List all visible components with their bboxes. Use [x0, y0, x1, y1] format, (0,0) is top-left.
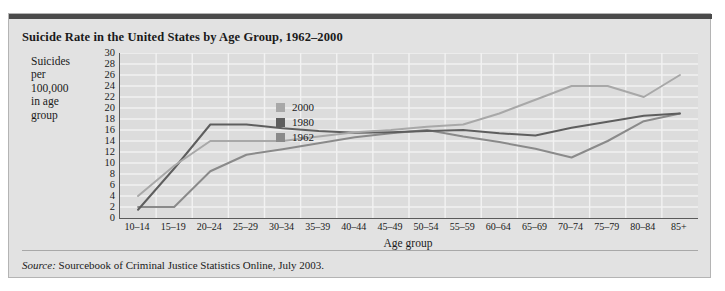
legend-swatch-icon — [276, 118, 285, 127]
x-tick-label: 15–19 — [161, 221, 186, 232]
y-axis-title-line-3: 100,000 — [31, 82, 93, 95]
y-tick-label: 10 — [105, 158, 116, 169]
legend-swatch-icon — [276, 103, 285, 112]
y-axis-title-line-4: in age — [31, 95, 93, 108]
source-label: Source: — [22, 259, 56, 271]
x-tick-label: 40–44 — [341, 221, 366, 232]
title-rule — [9, 14, 712, 19]
y-axis-title-line-1: Suicides — [31, 55, 93, 68]
y-tick-label: 24 — [105, 81, 116, 92]
chart-legend: 200019801962 — [276, 100, 314, 145]
y-axis-ticks: 024681012141618202224262830 — [97, 53, 115, 231]
legend-item-1962[interactable]: 1962 — [276, 130, 314, 145]
x-tick-label: 35–39 — [305, 221, 330, 232]
y-tick-label: 30 — [105, 48, 116, 59]
x-tick-label: 60–64 — [486, 221, 511, 232]
source-note: Source: Sourcebook of Criminal Justice S… — [22, 259, 324, 271]
legend-item-1980[interactable]: 1980 — [276, 115, 314, 130]
y-tick-label: 0 — [110, 213, 115, 224]
x-tick-label: 85+ — [671, 221, 687, 232]
x-tick-label: 10–14 — [125, 221, 150, 232]
legend-item-label: 1980 — [292, 117, 314, 128]
x-axis-title: Age group — [119, 237, 697, 249]
y-tick-label: 14 — [105, 136, 116, 147]
legend-item-label: 1962 — [292, 132, 314, 143]
chart-title: Suicide Rate in the United States by Age… — [22, 30, 343, 45]
y-tick-label: 12 — [105, 147, 116, 158]
series-canvas — [120, 53, 698, 218]
x-tick-label: 30–34 — [269, 221, 294, 232]
x-tick-label: 25–29 — [233, 221, 258, 232]
x-tick-label: 80–84 — [630, 221, 655, 232]
x-tick-label: 20–24 — [197, 221, 222, 232]
legend-swatch-icon — [276, 133, 285, 142]
x-tick-label: 45–49 — [377, 221, 402, 232]
y-tick-label: 8 — [110, 169, 115, 180]
source-text: Sourcebook of Criminal Justice Statistic… — [56, 259, 324, 271]
legend-item-2000[interactable]: 2000 — [276, 100, 314, 115]
y-tick-label: 16 — [105, 125, 116, 136]
legend-item-label: 2000 — [292, 102, 314, 113]
y-tick-label: 26 — [105, 70, 116, 81]
figure-panel: Suicide Rate in the United States by Age… — [8, 13, 711, 278]
y-axis-title-line-5: group — [31, 109, 93, 122]
y-tick-label: 18 — [105, 114, 116, 125]
x-axis-ticks: 10–1415–1920–2425–2930–3435–3940–4445–49… — [119, 221, 697, 237]
y-tick-label: 4 — [110, 191, 115, 202]
y-tick-label: 20 — [105, 103, 116, 114]
y-tick-label: 6 — [110, 180, 115, 191]
x-tick-label: 75–79 — [594, 221, 619, 232]
y-tick-label: 28 — [105, 59, 116, 70]
y-tick-label: 2 — [110, 202, 115, 213]
plot-wrapper: 024681012141618202224262830 10–1415–1920… — [97, 53, 697, 231]
x-tick-label: 70–74 — [558, 221, 583, 232]
y-tick-label: 22 — [105, 92, 116, 103]
y-axis-title-line-2: per — [31, 68, 93, 81]
plot-area — [119, 53, 698, 219]
y-axis-title: Suicides per 100,000 in age group — [31, 55, 93, 122]
x-tick-label: 65–69 — [522, 221, 547, 232]
x-tick-label: 55–59 — [450, 221, 475, 232]
source-divider — [22, 250, 698, 251]
x-tick-label: 50–54 — [414, 221, 439, 232]
